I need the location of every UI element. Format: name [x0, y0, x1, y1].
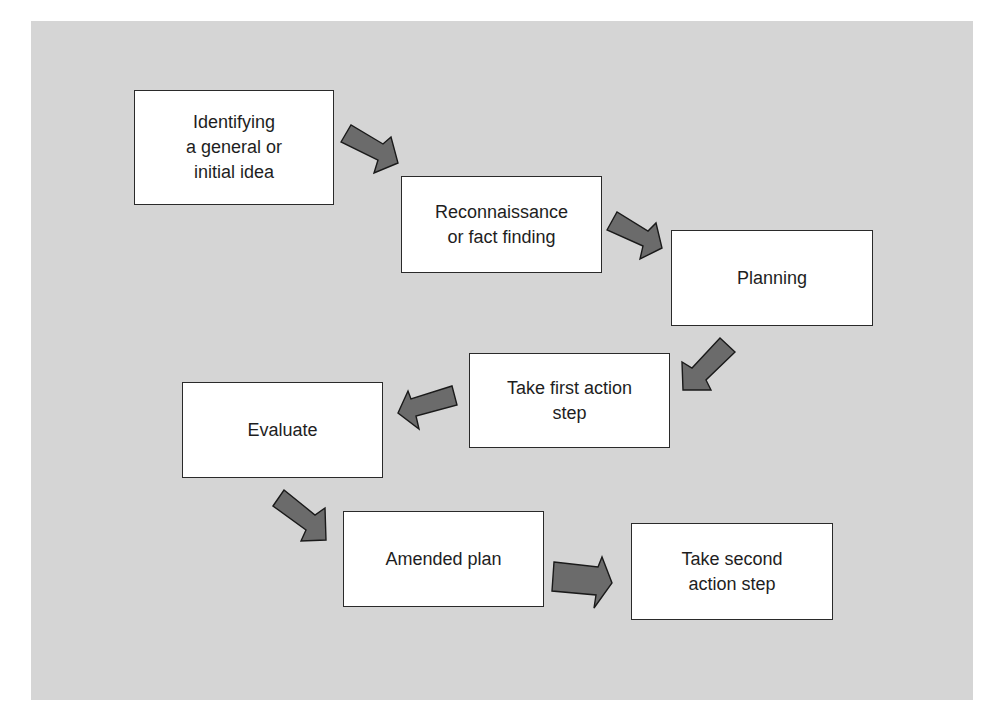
step-amended-plan: Amended plan [343, 511, 544, 607]
step-planning: Planning [671, 230, 873, 326]
step-identifying-idea: Identifying a general or initial idea [134, 90, 334, 205]
step-label: Take first action step [507, 376, 632, 426]
step-label: Evaluate [247, 418, 317, 443]
step-take-first-action: Take first action step [469, 353, 670, 448]
step-evaluate: Evaluate [182, 382, 383, 478]
step-label: Reconnaissance or fact finding [435, 200, 568, 250]
step-label: Take second action step [681, 547, 782, 597]
step-reconnaissance: Reconnaissance or fact finding [401, 176, 602, 273]
step-label: Identifying a general or initial idea [186, 110, 282, 185]
step-take-second-action: Take second action step [631, 523, 833, 620]
step-label: Planning [737, 266, 807, 291]
step-label: Amended plan [385, 547, 501, 572]
